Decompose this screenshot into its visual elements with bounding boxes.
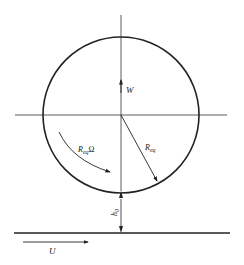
gap-label: h0 xyxy=(110,209,120,216)
radius-label: Req xyxy=(144,143,156,153)
rotation-label: ReqΩ xyxy=(77,145,95,155)
diagram-canvas: W Req ReqΩ h0 U xyxy=(0,0,244,265)
gap-arrow-top-icon xyxy=(119,191,123,198)
velocity-label: U xyxy=(49,246,56,256)
diagram-svg: W Req ReqΩ h0 U xyxy=(0,0,244,265)
gap-arrow-bottom-icon xyxy=(119,226,123,233)
load-label: W xyxy=(126,85,135,95)
